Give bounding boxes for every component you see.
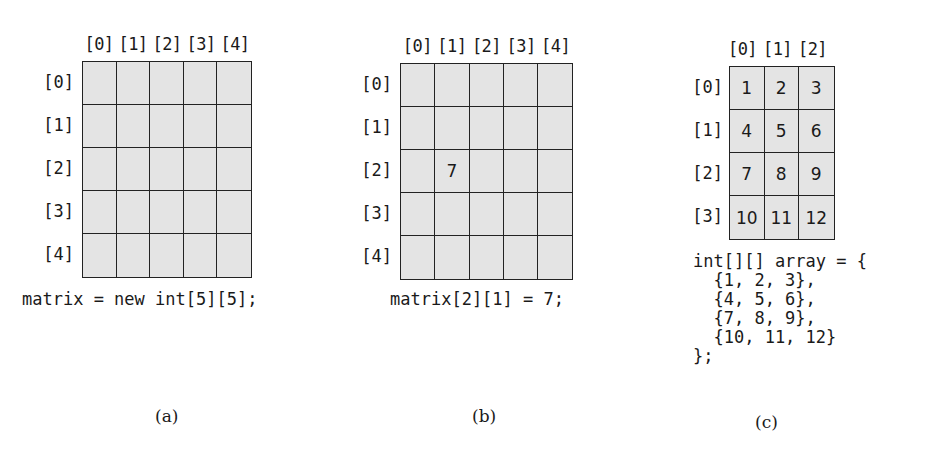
panel-label: (b)	[472, 406, 496, 426]
grid-cell: 7	[435, 150, 469, 193]
grid-cell	[184, 62, 218, 105]
column-index: [1]	[116, 34, 150, 54]
grid-cell	[470, 150, 504, 193]
code-statement: matrix[2][1] = 7;	[390, 290, 564, 309]
grid-cell	[184, 234, 218, 277]
row-index: [0]	[43, 72, 74, 92]
row-index: [0]	[692, 77, 723, 97]
grid-cell	[504, 236, 538, 279]
grid-cell	[117, 191, 151, 234]
grid-cell	[217, 148, 251, 191]
grid-cell: 12	[799, 196, 834, 239]
grid-cell	[150, 191, 184, 234]
array-grid: 123456789101112	[729, 66, 835, 240]
column-index: [3]	[504, 36, 539, 56]
panel-c: [0] [1] [2] [0] [1] [2] [3] 123456789101…	[630, 0, 931, 454]
grid-cell	[504, 150, 538, 193]
grid-cell: 11	[765, 196, 800, 239]
array-initializer-code: int[][] array = { {1, 2, 3}, {4, 5, 6}, …	[693, 252, 867, 366]
panel-label: (c)	[755, 412, 778, 432]
grid-cell: 1	[730, 67, 765, 110]
grid-cell	[83, 62, 117, 105]
grid-cell	[504, 107, 538, 150]
grid-cell	[538, 193, 572, 236]
panel-a: [0] [1] [2] [3] [4] [0] [1] [2] [3] [4] …	[0, 0, 310, 454]
grid-cell	[435, 64, 469, 107]
row-index: [2]	[692, 163, 723, 183]
grid-cell	[117, 148, 151, 191]
grid-cell: 5	[765, 110, 800, 153]
grid-cell	[83, 234, 117, 277]
column-index-headers: [0] [1] [2]	[725, 39, 830, 59]
column-index: [2]	[150, 34, 184, 54]
grid-cell	[538, 107, 572, 150]
row-index: [0]	[361, 74, 392, 94]
column-index: [1]	[760, 39, 795, 59]
grid-cell	[470, 193, 504, 236]
row-index: [1]	[361, 117, 392, 137]
grid-cell: 8	[765, 153, 800, 196]
grid-cell	[470, 236, 504, 279]
row-index: [4]	[361, 246, 392, 266]
grid-cell	[217, 62, 251, 105]
column-index: [4]	[538, 36, 573, 56]
grid-cell	[83, 105, 117, 148]
row-index: [2]	[361, 160, 392, 180]
grid-cell	[150, 148, 184, 191]
row-index: [1]	[692, 120, 723, 140]
column-index: [2]	[795, 39, 830, 59]
row-index: [3]	[43, 201, 74, 221]
code-statement: matrix = new int[5][5];	[22, 290, 257, 309]
column-index: [2]	[469, 36, 504, 56]
row-index: [4]	[43, 244, 74, 264]
grid-cell: 10	[730, 196, 765, 239]
grid-cell	[504, 193, 538, 236]
grid-cell	[470, 107, 504, 150]
row-index: [2]	[43, 158, 74, 178]
row-index: [3]	[692, 206, 723, 226]
grid-cell	[150, 105, 184, 148]
grid-cell	[83, 148, 117, 191]
row-index: [3]	[361, 203, 392, 223]
grid-cell	[401, 193, 435, 236]
grid-cell	[184, 191, 218, 234]
grid-cell	[217, 105, 251, 148]
column-index: [1]	[435, 36, 470, 56]
grid-cell	[470, 64, 504, 107]
grid-cell	[150, 62, 184, 105]
grid-cell	[435, 236, 469, 279]
grid-cell	[117, 105, 151, 148]
grid-cell	[184, 148, 218, 191]
grid-cell: 2	[765, 67, 800, 110]
grid-cell	[401, 236, 435, 279]
panel-b: [0] [1] [2] [3] [4] [0] [1] [2] [3] [4] …	[310, 0, 630, 454]
grid-cell	[538, 64, 572, 107]
grid-cell	[184, 105, 218, 148]
column-index-headers: [0] [1] [2] [3] [4]	[82, 34, 252, 54]
grid-cell	[538, 150, 572, 193]
grid-cell	[150, 234, 184, 277]
grid-cell: 3	[799, 67, 834, 110]
grid-cell	[401, 150, 435, 193]
grid-cell	[83, 191, 117, 234]
matrix-grid: 7	[400, 63, 573, 280]
column-index: [0]	[725, 39, 760, 59]
column-index: [0]	[400, 36, 435, 56]
column-index-headers: [0] [1] [2] [3] [4]	[400, 36, 573, 56]
grid-cell: 9	[799, 153, 834, 196]
column-index: [3]	[184, 34, 218, 54]
grid-cell	[504, 64, 538, 107]
grid-cell	[117, 234, 151, 277]
grid-cell	[401, 64, 435, 107]
grid-cell: 6	[799, 110, 834, 153]
grid-cell	[217, 234, 251, 277]
grid-cell	[538, 236, 572, 279]
matrix-grid	[82, 61, 252, 278]
column-index: [0]	[82, 34, 116, 54]
grid-cell	[217, 191, 251, 234]
grid-cell: 4	[730, 110, 765, 153]
grid-cell	[435, 193, 469, 236]
grid-cell	[117, 62, 151, 105]
panel-label: (a)	[155, 406, 178, 426]
column-index: [4]	[218, 34, 252, 54]
